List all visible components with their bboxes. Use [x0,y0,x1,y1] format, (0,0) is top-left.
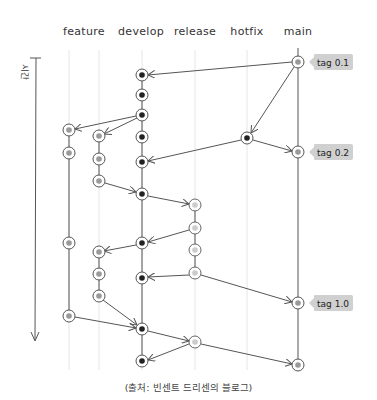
commit-node [189,222,201,234]
branch-label-feature: feature [63,25,105,38]
commit-node [136,188,148,200]
commit-node [136,69,148,81]
tag-0-1: tag 0.1 [309,54,353,70]
commit-node [241,132,253,144]
commit-arrows [75,62,294,364]
source-caption: (출처: 빈센트 드리센의 블로그) [0,380,377,394]
commit-node [93,290,105,302]
tag-label: tag 0.2 [317,148,349,158]
commit-node [136,355,148,367]
commit-node [189,199,201,211]
commit-node [93,153,105,165]
commit-node [93,175,105,187]
commit-node [136,237,148,249]
commit-node [63,237,75,249]
tag-1-0: tag 1.0 [309,295,353,311]
commit-node [292,297,304,309]
branch-label-release: release [174,25,216,38]
tag-0-2: tag 0.2 [309,144,353,160]
commit-node [136,89,148,101]
commit-node [292,359,304,371]
commit-node [136,156,148,168]
commit-node [292,56,304,68]
commit-node [93,130,105,142]
branch-label-main: main [284,25,313,38]
commit-node [93,268,105,280]
commit-node [189,244,201,256]
branch-labels: feature develop release hotfix main [63,25,312,38]
lane-guides [69,50,247,370]
hotfix-commits [241,132,253,144]
commit-node [136,109,148,121]
commit-node [63,147,75,159]
branch-label-develop: develop [118,25,164,38]
commit-node [136,323,148,335]
commit-node [136,272,148,284]
tag-label: tag 1.0 [317,299,349,309]
branch-label-hotfix: hotfix [230,25,263,38]
commit-node [189,336,201,348]
branch-lines [69,48,298,365]
commit-node [136,131,148,143]
commit-node [189,267,201,279]
commit-node [63,124,75,136]
time-axis-label: 시간 [20,64,30,80]
tag-label: tag 0.1 [317,58,349,68]
commit-node [292,146,304,158]
commit-node [93,246,105,258]
git-flow-diagram: feature develop release hotfix main 시간 [0,0,377,400]
commit-node [63,310,75,322]
time-axis [30,58,41,341]
